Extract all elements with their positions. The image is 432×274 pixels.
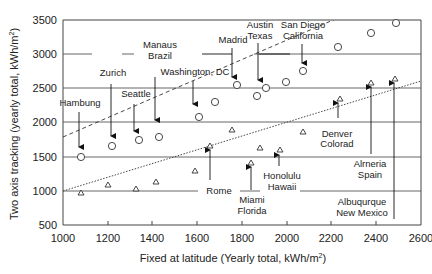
svg-text:2600: 2600 — [409, 232, 432, 244]
label-albuquerque: Albuqurque — [338, 196, 387, 207]
x-tick-labels: 1000 1200 1400 1600 1800 2000 2200 2400 … — [51, 232, 432, 244]
label-washington: Washington, DC — [161, 66, 230, 77]
svg-text:2000: 2000 — [33, 116, 57, 128]
label-san-diego: San Diego — [281, 19, 325, 30]
svg-text:Spain: Spain — [358, 169, 382, 180]
svg-text:2200: 2200 — [319, 232, 343, 244]
svg-text:2000: 2000 — [275, 232, 299, 244]
label-hambung: Hambung — [59, 97, 100, 108]
svg-text:500: 500 — [39, 219, 57, 231]
svg-text:2400: 2400 — [364, 232, 388, 244]
label-zurich: Zurich — [100, 67, 126, 78]
svg-text:California: California — [283, 30, 324, 41]
svg-text:3500: 3500 — [33, 14, 57, 26]
svg-text:1000: 1000 — [51, 232, 75, 244]
label-seattle: Seattle — [121, 88, 151, 99]
chart: 500 1000 1500 2000 2500 3000 3500 1000 1… — [0, 0, 432, 274]
axis-ticks — [108, 221, 376, 225]
label-rome: Rome — [206, 185, 231, 196]
label-madrid: Madrid — [218, 34, 247, 45]
svg-text:1200: 1200 — [96, 232, 120, 244]
x-axis-label: Fixed at latitude (Yearly total, kWh/m2) — [140, 252, 326, 264]
label-austin: Austin — [247, 19, 273, 30]
svg-text:Texas: Texas — [248, 30, 273, 41]
svg-text:Brazil: Brazil — [148, 50, 172, 61]
svg-text:1000: 1000 — [33, 185, 57, 197]
svg-text:1600: 1600 — [185, 232, 209, 244]
svg-text:New Mexico: New Mexico — [336, 207, 388, 218]
svg-text:3000: 3000 — [33, 48, 57, 60]
y-tick-labels: 500 1000 1500 2000 2500 3000 3500 — [33, 14, 57, 231]
svg-text:1400: 1400 — [140, 232, 164, 244]
svg-text:Colorad: Colorad — [320, 138, 353, 149]
label-manaus: Manaus — [143, 39, 177, 50]
label-honolulu: Honolulu — [263, 170, 301, 181]
svg-text:2500: 2500 — [33, 82, 57, 94]
svg-text:Hawaii: Hawaii — [268, 181, 297, 192]
label-almeria: Alrneria — [354, 158, 387, 169]
svg-text:Florida: Florida — [237, 205, 267, 216]
svg-text:1500: 1500 — [33, 151, 57, 163]
label-miami: Miami — [239, 194, 264, 205]
y-axis-label: Two axis tracking (yearly total, kWh/m2) — [8, 28, 20, 220]
svg-text:1800: 1800 — [230, 232, 254, 244]
